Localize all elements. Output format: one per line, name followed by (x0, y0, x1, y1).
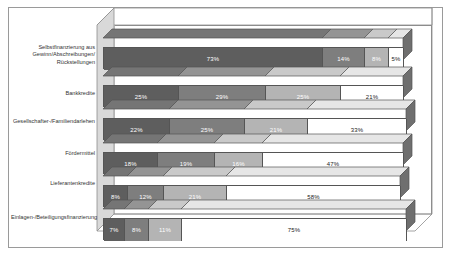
bar-row: 22%25%21%33% (103, 109, 403, 131)
segment-value-label: 33% (351, 127, 363, 133)
category-label: Lieferantenkredite (11, 180, 95, 187)
bar-row: 18%19%16%47% (103, 143, 403, 165)
category-label: Einlagen-/Beteiligungsfinanzierung (11, 214, 95, 221)
category-label: Bankkredite (11, 90, 95, 97)
category-label: Fördermittel (11, 150, 95, 157)
segment-value-label: 5% (392, 56, 401, 62)
segment-value-label: 11% (159, 227, 171, 233)
segment-value-label: 7% (110, 227, 119, 233)
plot-area: Selbstfinanzierung aus Gewinn/Abschreibu… (9, 8, 444, 249)
category-label: Selbstfinanzierung aus Gewinn/Abschreibu… (11, 44, 95, 66)
bar-front-faces: 73%14%8%5% (103, 47, 403, 69)
bar-segment: 75% (182, 219, 407, 241)
segment-value-label: 22% (130, 127, 142, 133)
bar-row: 73%14%8%5% (103, 38, 403, 60)
segment-value-label: 14% (337, 56, 349, 62)
category-label: Gesellschafter-/Familiendarlehen (11, 118, 95, 125)
segment-value-label: 21% (270, 127, 282, 133)
bar-segment: 8% (125, 219, 149, 241)
bar-segment: 11% (149, 219, 182, 241)
bar-row: 8%12%21%58% (103, 176, 403, 198)
segment-value-label: 8% (372, 56, 381, 62)
category-label-column: Selbstfinanzierung aus Gewinn/Abschreibu… (9, 8, 95, 249)
bar-row: 25%29%25%21% (103, 76, 403, 98)
chart-frame: Selbstfinanzierung aus Gewinn/Abschreibu… (8, 7, 443, 248)
bar-segment: 7% (104, 219, 125, 241)
bar-front-faces: 7%8%11%75% (103, 218, 406, 240)
bar-row: 7%8%11%75% (103, 209, 403, 231)
segment-value-label: 73% (207, 56, 219, 62)
segment-value-label: 75% (288, 227, 300, 233)
segment-value-label: 25% (201, 127, 213, 133)
segment-value-label: 8% (132, 227, 141, 233)
